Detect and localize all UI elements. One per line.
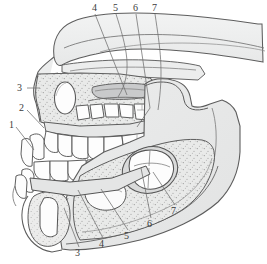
label-bottom-4: 4	[99, 239, 104, 249]
anatomical-figure: 4 5 6 7 3 2 1 3 4 5 6 7	[0, 0, 267, 264]
label-bottom-5: 5	[124, 231, 129, 241]
label-left-1: 1	[9, 120, 14, 130]
label-top-6: 6	[133, 3, 138, 13]
skull-diagram-svg	[0, 0, 267, 264]
label-left-3: 3	[17, 83, 22, 93]
label-bottom-6: 6	[147, 219, 152, 229]
label-bottom-3: 3	[75, 248, 80, 258]
cranial-vault	[54, 13, 265, 65]
label-top-5: 5	[113, 3, 118, 13]
mandibular-symphysis	[28, 192, 70, 247]
maxillary-incisor-crypt	[55, 82, 76, 114]
label-top-4: 4	[92, 3, 97, 13]
label-left-2: 2	[19, 103, 24, 113]
label-bottom-7: 7	[171, 206, 176, 216]
label-top-7: 7	[152, 3, 157, 13]
